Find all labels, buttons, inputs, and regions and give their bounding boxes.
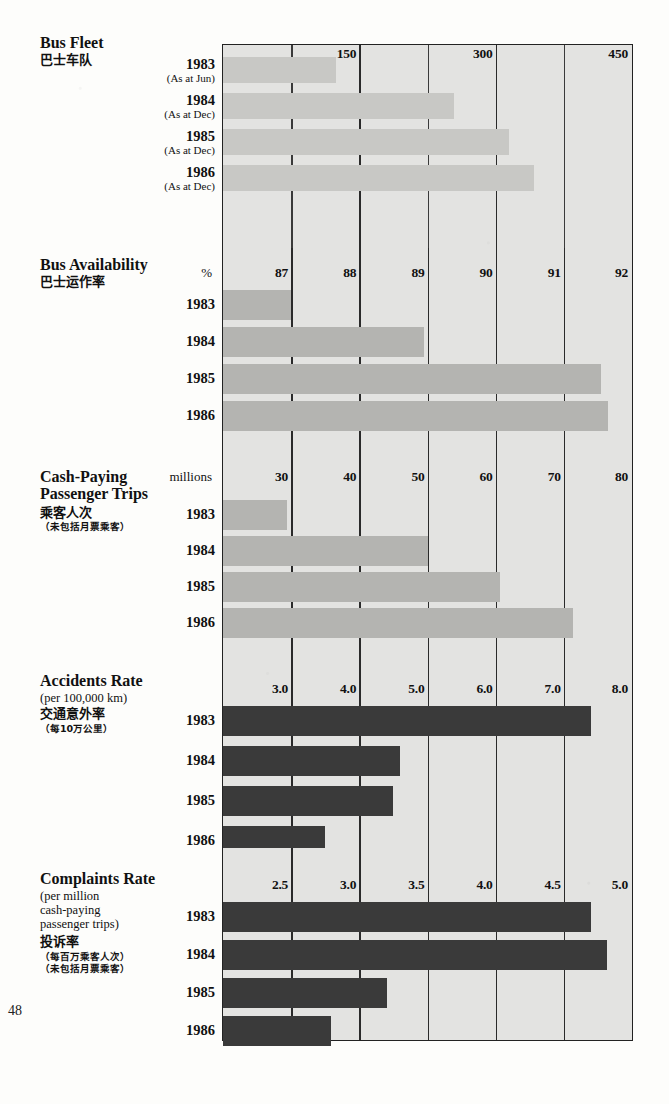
axis-tick-label-5-5: 5.0: [612, 877, 631, 893]
bar-5-1985: [223, 978, 387, 1008]
category-label-2-2: 1985: [10, 371, 215, 386]
chart-plot-area-2: 878889909192: [222, 248, 633, 440]
bar-1-1983: [223, 57, 336, 83]
category-year: 1986: [10, 408, 215, 423]
chart-title-cn-1: 巴士车队: [40, 52, 92, 68]
chart-plot-area-3: 304050607080: [222, 440, 633, 642]
axis-tick-label-1-2: 450: [608, 46, 631, 62]
chart-plot-area-4: 3.04.05.06.07.08.0: [222, 642, 633, 848]
chart-title-cn-4: 交通意外率: [40, 706, 105, 722]
axis-tick-label-4-5: 8.0: [612, 681, 631, 697]
category-label-2-1: 1984: [10, 334, 215, 349]
page-number: 48: [8, 1003, 22, 1019]
chart-title-en-1: Bus Fleet: [40, 34, 104, 51]
bar-4-1983: [223, 706, 591, 736]
category-label-3-2: 1985: [10, 579, 215, 594]
category-note: (As at Dec): [10, 144, 215, 156]
axis-tick-label-4-2: 5.0: [408, 681, 427, 697]
chart-title-en-5: Complaints Rate: [40, 870, 155, 887]
bar-4-1984: [223, 746, 400, 776]
chart-title-en-2: Bus Availability: [40, 256, 148, 273]
axis-tick-label-4-3: 6.0: [476, 681, 495, 697]
axis-tick-row-3: 304050607080: [223, 468, 632, 490]
bar-4-1985: [223, 786, 393, 816]
axis-tick-label-2-0: 87: [275, 265, 291, 281]
chart-title-cn-sub-4: （每10万公里）: [40, 723, 113, 735]
category-label-4-3: 1986: [10, 833, 215, 848]
axis-tick-row-5: 2.53.03.54.04.55.0: [223, 876, 632, 898]
category-label-1-1: 1984(As at Dec): [10, 93, 215, 120]
axis-tick-label-4-4: 7.0: [545, 681, 564, 697]
chart-plot-area-5: 2.53.03.54.04.55.0: [222, 848, 633, 1041]
axis-tick-label-2-2: 89: [411, 265, 427, 281]
category-year: 1986: [10, 615, 215, 630]
chart-title-en-4: Accidents Rate: [40, 672, 143, 689]
bar-5-1986: [223, 1016, 331, 1046]
gridline-4-1: [359, 642, 361, 848]
axis-tick-label-2-5: 92: [615, 265, 631, 281]
axis-tick-label-3-1: 40: [343, 469, 359, 485]
gridline-4-3: [496, 642, 498, 848]
chart-title-cn-2: 巴士运作率: [40, 274, 105, 290]
axis-tick-label-5-3: 4.0: [476, 877, 495, 893]
bar-2-1986: [223, 401, 608, 431]
category-year: 1983: [10, 297, 215, 312]
axis-tick-label-3-0: 30: [275, 469, 291, 485]
gridline-4-0: [291, 642, 293, 848]
axis-tick-label-4-1: 4.0: [340, 681, 359, 697]
axis-tick-label-5-0: 2.5: [272, 877, 291, 893]
category-year: 1985: [10, 129, 215, 144]
category-note: (As at Dec): [10, 180, 215, 192]
bar-2-1985: [223, 364, 601, 394]
axis-tick-label-5-1: 3.0: [340, 877, 359, 893]
bar-3-1986: [223, 608, 573, 638]
axis-tick-label-1-0: 150: [337, 46, 360, 62]
chart-plot-area-1: 150300450: [222, 44, 633, 249]
category-label-5-2: 1985: [10, 985, 215, 1000]
category-label-2-3: 1986: [10, 408, 215, 423]
category-label-4-2: 1985: [10, 793, 215, 808]
chart-title-cn-3: 乘客人次: [40, 505, 92, 521]
gridline-4-2: [428, 642, 430, 848]
axis-tick-label-3-3: 60: [480, 469, 496, 485]
bar-1-1986: [223, 165, 534, 191]
axis-tick-label-3-2: 50: [411, 469, 427, 485]
bar-1-1984: [223, 93, 454, 119]
axis-tick-label-5-4: 4.5: [545, 877, 564, 893]
bar-3-1984: [223, 536, 428, 566]
gridline-4-4: [564, 642, 566, 848]
category-label-4-1: 1984: [10, 753, 215, 768]
bar-2-1984: [223, 327, 424, 357]
axis-tick-label-3-4: 70: [548, 469, 564, 485]
bar-2-1983: [223, 290, 291, 320]
category-year: 1985: [10, 579, 215, 594]
category-note: (As at Jun): [10, 72, 215, 84]
axis-tick-label-3-5: 80: [615, 469, 631, 485]
axis-tick-label-4-0: 3.0: [272, 681, 291, 697]
category-year: 1986: [10, 1023, 215, 1038]
category-year: 1984: [10, 93, 215, 108]
category-year: 1985: [10, 985, 215, 1000]
bar-3-1983: [223, 500, 287, 530]
category-year: 1984: [10, 334, 215, 349]
axis-tick-label-1-1: 300: [473, 46, 496, 62]
bar-1-1985: [223, 129, 509, 155]
chart-title-en-3: Cash-Paying Passenger Trips: [40, 468, 148, 502]
chart-title-sub-4: (per 100,000 km): [40, 691, 127, 705]
bar-5-1984: [223, 940, 607, 970]
category-label-3-1: 1984: [10, 543, 215, 558]
chart-title-cn-5: 投诉率: [40, 934, 79, 950]
bar-5-1983: [223, 902, 591, 932]
category-label-3-3: 1986: [10, 615, 215, 630]
axis-tick-row-2: 878889909192: [223, 264, 632, 286]
category-year: 1986: [10, 833, 215, 848]
category-note: (As at Dec): [10, 108, 215, 120]
bar-3-1985: [223, 572, 500, 602]
chart-title-cn-sub-3: （未包括月票乘客）: [40, 521, 130, 533]
gridline-minor-1-2: [564, 45, 566, 249]
category-label-1-3: 1986(As at Dec): [10, 165, 215, 192]
category-year: 1985: [10, 793, 215, 808]
axis-tick-label-2-1: 88: [343, 265, 359, 281]
axis-tick-label-2-3: 90: [480, 265, 496, 281]
category-year: 1986: [10, 165, 215, 180]
